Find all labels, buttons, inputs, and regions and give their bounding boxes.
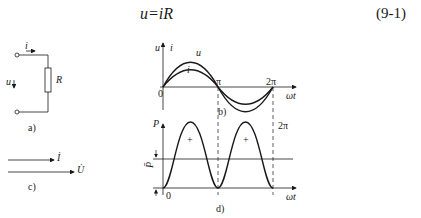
b-curve-u-label: u (196, 47, 201, 58)
d-avg-label: P̄ (144, 162, 155, 168)
figure-d-plot (153, 122, 296, 196)
d-y-label: P (153, 118, 159, 129)
terminal-bottom-icon (15, 110, 19, 114)
b-curve-i-label: i (187, 64, 190, 75)
b-y-label-i: i (170, 42, 173, 53)
figure-c-phasors (8, 160, 74, 172)
a-voltage-label: u (6, 76, 11, 87)
d-plus-1: + (187, 134, 193, 145)
b-two-pi-label: 2π (266, 76, 276, 87)
d-plus-2: + (243, 134, 249, 145)
a-resistor-label: R (56, 74, 62, 85)
c-voltage-phasor-label: U̇ (77, 164, 84, 175)
b-pi-label: π (216, 76, 221, 87)
d-x-label: ωt (286, 191, 296, 202)
figure-b-plot (160, 43, 296, 195)
terminal-top-icon (15, 53, 19, 57)
d-origin-label: 0 (166, 190, 171, 201)
b-origin-label: 0 (158, 88, 163, 99)
b-caption: b) (218, 106, 226, 117)
a-caption: a) (28, 122, 36, 133)
d-caption: d) (216, 203, 224, 214)
c-caption: c) (28, 181, 36, 192)
b-x-label: ωt (286, 90, 296, 101)
a-current-label: i (25, 40, 28, 51)
figure-canvas (0, 0, 421, 218)
d-two-pi-label: 2π (278, 120, 288, 131)
c-current-phasor-label: İ (57, 152, 60, 163)
figure-a-circuit (14, 51, 51, 114)
b-y-label-u: u (155, 42, 160, 53)
resistor-icon (45, 68, 51, 92)
